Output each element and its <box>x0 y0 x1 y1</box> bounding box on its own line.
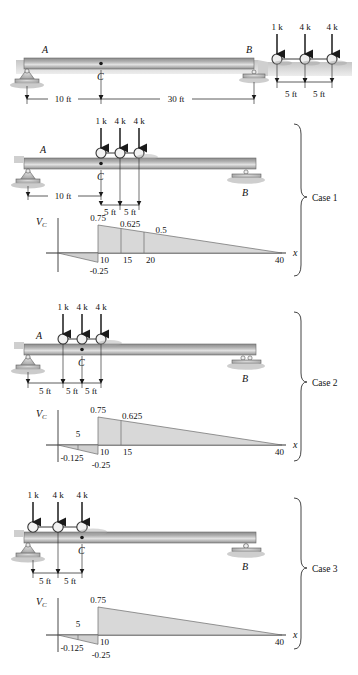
xtick-15-case-1: 15 <box>123 255 133 265</box>
roller-support-B-case-3 <box>227 544 265 558</box>
axis-label-vc-case-1: VC <box>36 216 47 229</box>
value-5-case-2: 5 <box>76 429 81 439</box>
load-label-3-top: 4 k <box>326 22 338 32</box>
engineering-figure: C A B 1 k 4 k 4 k <box>0 0 358 675</box>
label-C-case-3: C <box>78 545 85 556</box>
xtick-10-case-3: 10 <box>100 637 110 647</box>
load-label-1-case-3: 1 k <box>27 490 39 500</box>
brace-case-1: Case 1 <box>294 124 338 276</box>
axis-label-x-case-3: x <box>292 629 298 640</box>
load-label-2-top: 4 k <box>299 22 311 32</box>
dimension-line-top: 10 ft 30 ft <box>27 70 254 104</box>
value-neg0p125-case-3: -0.125 <box>60 643 84 653</box>
xtick-40-case-2: 40 <box>275 447 285 457</box>
pin-support-A-case-2 <box>11 355 45 375</box>
label-B-top: B <box>246 44 252 55</box>
beam-case-1 <box>24 158 256 169</box>
pos-region-case-2 <box>98 417 282 445</box>
xtick-10-case-1: 10 <box>100 255 110 265</box>
label-B-case-1: B <box>242 187 248 198</box>
pos-region-case-3 <box>98 607 282 635</box>
label-A-case-2: A <box>35 330 43 341</box>
axis-label-vc-case-3: VC <box>36 596 47 609</box>
pin-support-A-case-1 <box>11 169 45 189</box>
label-B-case-2: B <box>242 373 248 384</box>
case-3-group: 1 k 4 k 4 k C B 5 ft 5 ft VC x 0.75 5 <box>11 490 338 660</box>
label-C-case-1: C <box>97 171 104 182</box>
value-0p75-case-2: 0.75 <box>90 405 106 415</box>
label-A-case-1: A <box>39 144 47 155</box>
pos-region-case-1 <box>98 225 282 253</box>
load-label-2-case-2: 4 k <box>76 302 88 312</box>
dim-5ft-a-top: 5 ft <box>285 89 298 99</box>
value-neg0p25-case-3: -0.25 <box>92 650 111 660</box>
dim-5ft-a-case-3: 5 ft <box>39 576 52 586</box>
axis-label-x-case-1: x <box>292 247 298 258</box>
xtick-20-case-1: 20 <box>146 255 156 265</box>
roller-support-B-case-2 <box>227 356 265 370</box>
wall-stub-case-1 <box>14 156 24 163</box>
value-neg0p125-case-2: -0.125 <box>60 453 84 463</box>
dim-10ft-case-1: 10 ft <box>55 191 72 201</box>
value-neg0p25-case-1: -0.25 <box>90 266 109 276</box>
load-label-1-top: 1 k <box>271 22 283 32</box>
truck-case-1: 1 k 4 k 4 k <box>95 116 158 160</box>
pin-support-A-case-3 <box>11 543 45 563</box>
neg-region-case-1 <box>58 253 98 262</box>
ground-step <box>258 60 268 76</box>
dim-10ft-top: 10 ft <box>55 94 72 104</box>
value-0p625-case-1: 0.625 <box>120 219 141 229</box>
xtick-40-case-3: 40 <box>275 637 285 647</box>
load-label-1-case-2: 1 k <box>57 302 69 312</box>
wall-stub-case-3 <box>14 530 24 537</box>
case-label-3: Case 3 <box>312 564 338 574</box>
label-B-case-3: B <box>242 561 248 572</box>
case-label-2: Case 2 <box>312 378 338 388</box>
load-label-3-case-2: 4 k <box>95 302 107 312</box>
wall-stub-case-2 <box>14 342 24 349</box>
top-beam-panel: C A B 1 k 4 k 4 k <box>10 22 352 104</box>
brace-case-3: Case 3 <box>294 498 338 649</box>
value-0p625-case-2: 0.625 <box>122 411 143 421</box>
axis-label-x-case-2: x <box>292 439 298 450</box>
xtick-10-case-2: 10 <box>100 447 110 457</box>
label-A-top: A <box>41 44 49 55</box>
case-label-1: Case 1 <box>312 193 338 203</box>
dim-5ft-b-top: 5 ft <box>313 89 326 99</box>
point-C-marker-top <box>99 62 103 66</box>
dim-5ft-c-case-2: 5 ft <box>85 386 98 396</box>
label-C-case-2: C <box>78 357 85 368</box>
point-C-marker-case-2 <box>80 348 84 352</box>
axis-label-vc-case-2: VC <box>36 408 47 421</box>
xtick-40-case-1: 40 <box>275 255 285 265</box>
shear-diagram-case-1: VC x 0.75 0.625 0.5 -0.25 10 15 20 40 <box>36 213 298 276</box>
dim-30ft-top: 30 ft <box>168 94 185 104</box>
figure-root: C A B 1 k 4 k 4 k <box>0 0 358 675</box>
xtick-15-case-2: 15 <box>123 447 133 457</box>
value-0p75-case-1: 0.75 <box>90 213 106 223</box>
truck-case-3: 1 k 4 k 4 k <box>27 490 107 535</box>
load-label-3-case-3: 4 k <box>76 490 88 500</box>
beam-case-3 <box>24 532 256 543</box>
shear-diagram-case-3: VC x 0.75 5 -0.125 -0.25 10 40 <box>36 595 298 660</box>
load-label-1-case-1: 1 k <box>95 116 107 126</box>
value-neg0p25-case-2: -0.25 <box>92 460 111 470</box>
truck-top: 1 k 4 k 4 k <box>271 22 347 65</box>
roller-support-B-case-1 <box>227 170 265 184</box>
load-label-3-case-1: 4 k <box>133 116 145 126</box>
label-C-top: C <box>97 71 104 82</box>
value-0p5-case-1: 0.5 <box>155 225 167 235</box>
brace-case-2: Case 2 <box>294 312 338 461</box>
dim-5ft-b-case-3: 5 ft <box>64 576 77 586</box>
dim-5ft-b-case-2: 5 ft <box>66 386 79 396</box>
value-0p75-case-3: 0.75 <box>90 595 106 605</box>
dim-5ft-b-case-1: 5 ft <box>124 207 137 217</box>
case-1-group: 1 k 4 k 4 k C A B 10 ft 5 ft 5 ft <box>11 116 338 276</box>
case-2-group: 1 k 4 k 4 k C A B 5 ft 5 ft 5 ft VC x <box>11 302 338 470</box>
load-label-2-case-3: 4 k <box>52 490 64 500</box>
beam-case-2 <box>24 344 256 355</box>
point-C-marker-case-1 <box>99 162 103 166</box>
truck-case-2: 1 k 4 k 4 k <box>57 302 122 346</box>
shear-diagram-case-2: VC x 0.75 0.625 5 -0.125 -0.25 10 15 40 <box>36 405 298 470</box>
dim-5ft-a-case-2: 5 ft <box>39 386 52 396</box>
